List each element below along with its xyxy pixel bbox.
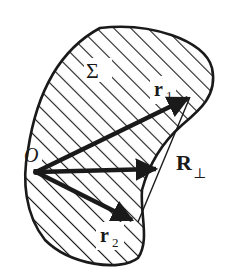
r2-label: r <box>100 224 109 246</box>
vector-diagram: Σ O r 1 r 2 R ⊥ <box>0 0 228 279</box>
r-perp-subscript: ⊥ <box>193 166 206 181</box>
region-label: Σ <box>86 58 99 83</box>
r1-label: r <box>154 78 163 100</box>
vector-r-perp <box>36 169 156 172</box>
diagram-canvas: Σ O r 1 r 2 R ⊥ <box>0 0 228 279</box>
r2-subscript: 2 <box>112 235 119 250</box>
origin-label: O <box>24 144 38 166</box>
r-perp-label: R <box>176 150 193 175</box>
origin-point <box>33 169 39 175</box>
r1-subscript: 1 <box>166 88 173 103</box>
